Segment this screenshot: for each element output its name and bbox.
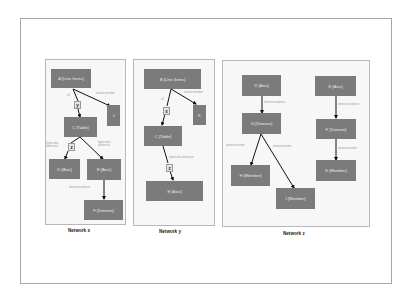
node-j[interactable]: J: [107, 105, 120, 126]
node-i-member[interactable]: I [Member]: [276, 188, 315, 209]
edge-label-hypercube-dimension: hypercube-dimension: [169, 157, 194, 160]
node-c-table[interactable]: C [Table]: [64, 117, 97, 137]
intermediate-z[interactable]: z: [68, 143, 75, 151]
node-c-table[interactable]: C [Table]: [144, 126, 182, 146]
edge-label-domain-member: domain-member: [184, 92, 203, 95]
node-k-member[interactable]: K [Member]: [316, 160, 356, 181]
node-f-domain[interactable]: F [Domain]: [84, 200, 123, 220]
node-g-domain[interactable]: G [Domain]: [242, 113, 281, 134]
node-e-axis[interactable]: E [Axis]: [315, 76, 356, 96]
node-d-axis[interactable]: D [Axis]: [242, 75, 281, 96]
edge-label-domain-member: domain-member: [273, 146, 292, 149]
network-z-title: Network z: [283, 231, 305, 236]
edge-label-hypercube-dimension: hypercube-dimension: [98, 142, 118, 148]
node-k[interactable]: K: [193, 105, 206, 125]
edge-label-all: all: [67, 95, 70, 98]
edge-label-domain-member: domain-member: [226, 145, 245, 148]
intermediate-z[interactable]: z: [166, 164, 173, 172]
node-e-axis[interactable]: E [Axis]: [146, 181, 203, 201]
node-e-axis[interactable]: E [Axis]: [87, 159, 121, 180]
node-b-line-items[interactable]: B [Line Items]: [144, 69, 201, 89]
network-y-title: Network y: [159, 229, 181, 234]
edge-label-all: all: [161, 99, 164, 102]
intermediate-x[interactable]: x: [163, 107, 170, 115]
node-a-line-items[interactable]: A [Line Items]: [51, 69, 91, 88]
intermediate-y[interactable]: y: [74, 101, 81, 109]
edge-label-dimension-domain: dimension-domain: [338, 104, 359, 107]
edge-label-domain-member: domain-member: [96, 93, 115, 96]
node-d-axis[interactable]: D [Axis]: [49, 159, 80, 179]
node-h-member[interactable]: H [Member]: [231, 165, 270, 186]
network-x-title: Network x: [68, 228, 90, 233]
edge-label-dimension-domain: dimension-domain: [264, 102, 285, 105]
edge-label-domain-member: domain-member: [338, 148, 357, 151]
node-f-domain[interactable]: F [Domain]: [316, 119, 356, 139]
edge-label-dimension-domain: dimension-domain: [69, 187, 90, 190]
edge-label-hypercube-dimension: hypercube-dimension: [46, 143, 66, 149]
